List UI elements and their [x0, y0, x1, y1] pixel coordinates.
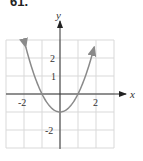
- y-tick-label: 1: [51, 71, 56, 82]
- y-tick-label: -2: [45, 125, 53, 136]
- y-axis-label: y: [55, 9, 61, 21]
- x-tick-label: 2: [93, 97, 98, 108]
- x-axis-label: x: [129, 88, 135, 100]
- y-tick-label: 2: [50, 53, 55, 64]
- graph: x y -2 2 2 1 -2: [0, 0, 143, 161]
- x-tick-label: -2: [18, 97, 26, 108]
